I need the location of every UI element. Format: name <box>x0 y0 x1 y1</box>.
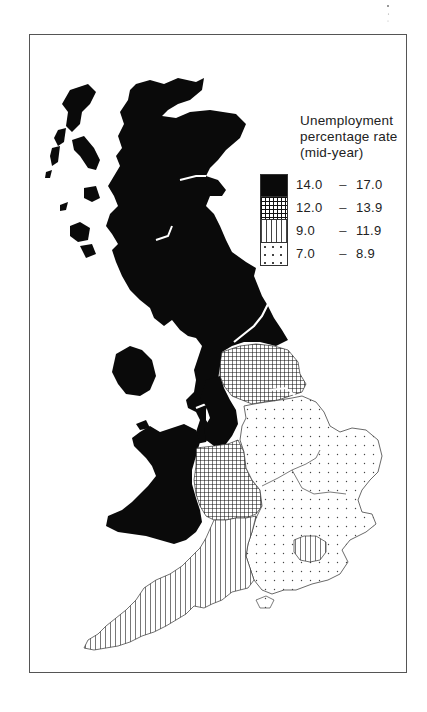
range-dash: – <box>330 246 356 261</box>
range-high: 8.9 <box>356 246 375 261</box>
range-high: 13.9 <box>356 200 383 215</box>
uk-choropleth-map <box>0 0 427 712</box>
region-east-midlands-east-anglia-south-east <box>240 396 382 594</box>
range-dash: – <box>330 200 356 215</box>
range-low: 12.0 <box>296 200 330 215</box>
range-low: 9.0 <box>296 223 330 238</box>
region-northern-ireland <box>112 346 156 396</box>
cross-hatch-swatch-icon <box>260 197 288 220</box>
legend-item-lower-mid: 9.0–11.9 <box>260 220 410 243</box>
range-high: 11.9 <box>356 223 382 238</box>
legend-item-upper-mid: 12.0–13.9 <box>260 197 410 220</box>
vertical-lines-swatch-icon <box>260 220 288 243</box>
legend-title-line3: (mid-year) <box>300 145 398 161</box>
range-high: 17.0 <box>356 177 383 192</box>
region-greater-london <box>294 536 326 562</box>
legend-title: Unemployment percentage rate (mid-year) <box>300 113 398 161</box>
range-dash: – <box>330 177 356 192</box>
range-low: 7.0 <box>296 246 330 261</box>
legend-range: 9.0–11.9 <box>296 223 382 238</box>
range-dash: – <box>330 223 356 238</box>
legend-range: 7.0–8.9 <box>296 246 375 261</box>
isle-of-wight <box>256 596 274 608</box>
range-low: 14.0 <box>296 177 330 192</box>
legend-title-line2: percentage rate <box>300 129 398 145</box>
scan-speck-decoration <box>386 2 390 26</box>
legend-range: 14.0–17.0 <box>296 177 383 192</box>
dots-swatch-icon <box>260 243 288 266</box>
legend-title-line1: Unemployment <box>300 113 398 129</box>
solid-black-swatch-icon <box>260 174 288 197</box>
legend: 14.0–17.0 12.0–13.9 9.0–11.9 7.0–8.9 <box>260 174 410 266</box>
legend-item-high: 14.0–17.0 <box>260 174 410 197</box>
legend-range: 12.0–13.9 <box>296 200 383 215</box>
scotland-islands <box>45 84 100 258</box>
legend-item-low: 7.0–8.9 <box>260 243 410 266</box>
region-wales <box>106 424 202 544</box>
